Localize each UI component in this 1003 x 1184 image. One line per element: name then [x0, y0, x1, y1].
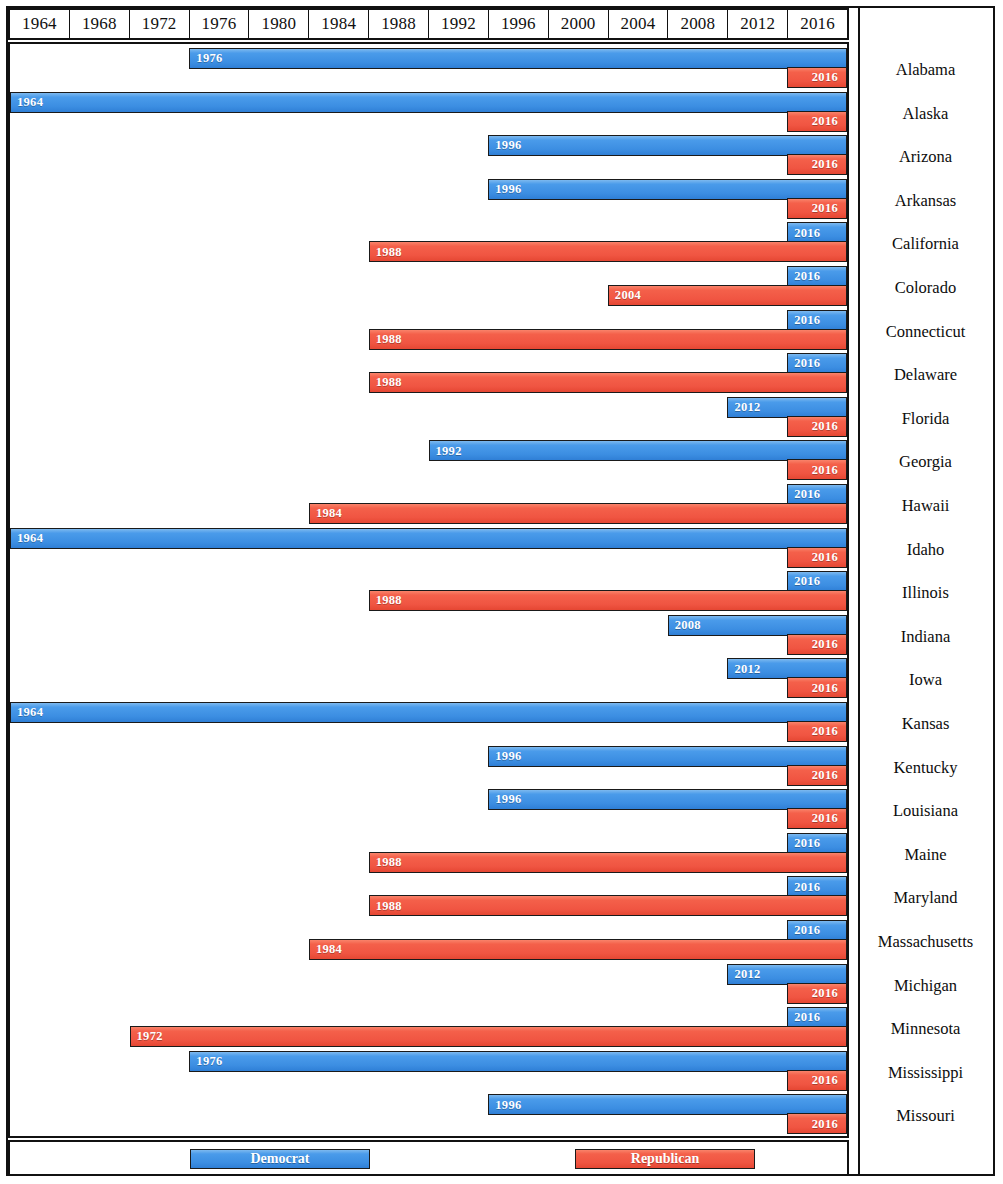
bar-label-democrat: 1992: [430, 445, 462, 458]
bar-label-democrat: 2016: [788, 924, 820, 937]
bar-republican-california: 1988: [369, 241, 847, 262]
bar-republican-maine: 1988: [369, 852, 847, 873]
state-label-kentucky: Kentucky: [860, 758, 991, 778]
bar-label-republican: 2016: [812, 464, 846, 477]
bar-democrat-kentucky: 1996: [488, 746, 847, 767]
bar-label-democrat: 2016: [788, 837, 820, 850]
bar-label-democrat: 2016: [788, 357, 820, 370]
bar-label-republican: 1988: [370, 376, 402, 389]
bar-republican-illinois: 1988: [369, 590, 847, 611]
bar-republican-alabama: 2016: [787, 67, 847, 88]
bar-democrat-connecticut: 2016: [787, 310, 847, 331]
state-label-arkansas: Arkansas: [860, 191, 991, 211]
bar-label-democrat: 2016: [788, 270, 820, 283]
bar-republican-louisiana: 2016: [787, 808, 847, 829]
bar-label-democrat: 2012: [728, 968, 760, 981]
state-label-california: California: [860, 234, 991, 254]
state-label-minnesota: Minnesota: [860, 1019, 991, 1039]
bar-democrat-mississippi: 1976: [189, 1051, 847, 1072]
state-label-maine: Maine: [860, 845, 991, 865]
axis-tick-1976: 1976: [190, 10, 250, 38]
bar-republican-georgia: 2016: [787, 459, 847, 480]
bar-democrat-kansas: 1964: [10, 702, 847, 723]
bar-republican-alaska: 2016: [787, 111, 847, 132]
bar-republican-minnesota: 1972: [130, 1026, 847, 1047]
bar-republican-hawaii: 1984: [309, 503, 847, 524]
bar-label-democrat: 1964: [11, 532, 43, 545]
state-label-hawaii: Hawaii: [860, 496, 991, 516]
bar-label-republican: 2016: [812, 725, 846, 738]
bar-label-republican: 2004: [609, 289, 641, 302]
bar-label-republican: 2016: [812, 202, 846, 215]
bar-republican-kentucky: 2016: [787, 765, 847, 786]
bar-label-democrat: 2016: [788, 488, 820, 501]
state-label-illinois: Illinois: [860, 583, 991, 603]
bar-democrat-michigan: 2012: [727, 964, 847, 985]
bar-republican-michigan: 2016: [787, 983, 847, 1004]
bar-democrat-louisiana: 1996: [488, 789, 847, 810]
state-label-mississippi: Mississippi: [860, 1063, 991, 1083]
state-label-alabama: Alabama: [860, 60, 991, 80]
bar-democrat-maine: 2016: [787, 833, 847, 854]
axis-tick-1980: 1980: [249, 10, 309, 38]
bar-label-republican: 2016: [812, 420, 846, 433]
bar-republican-maryland: 1988: [369, 895, 847, 916]
axis-tick-1972: 1972: [130, 10, 190, 38]
bar-democrat-alabama: 1976: [189, 48, 847, 69]
state-label-michigan: Michigan: [860, 976, 991, 996]
axis-tick-1992: 1992: [429, 10, 489, 38]
bar-republican-massachusetts: 1984: [309, 939, 847, 960]
bar-republican-kansas: 2016: [787, 721, 847, 742]
bar-democrat-idaho: 1964: [10, 528, 847, 549]
bar-republican-arkansas: 2016: [787, 198, 847, 219]
state-label-arizona: Arizona: [860, 147, 991, 167]
legend-label-republican: Republican: [631, 1151, 699, 1167]
bar-label-republican: 2016: [812, 812, 846, 825]
bar-democrat-alaska: 1964: [10, 92, 847, 113]
state-label-indiana: Indiana: [860, 627, 991, 647]
bar-democrat-missouri: 1996: [488, 1094, 847, 1115]
bar-label-democrat: 1996: [489, 793, 521, 806]
bar-label-republican: 1984: [310, 507, 342, 520]
state-label-delaware: Delaware: [860, 365, 991, 385]
plot-area: 1976201619642016199620161996201620161988…: [8, 42, 849, 1138]
legend-label-democrat: Democrat: [250, 1151, 309, 1167]
bar-democrat-indiana: 2008: [668, 615, 847, 636]
bar-label-democrat: 1964: [11, 96, 43, 109]
bar-democrat-maryland: 2016: [787, 876, 847, 897]
state-label-georgia: Georgia: [860, 452, 991, 472]
bar-label-democrat: 2016: [788, 881, 820, 894]
bar-label-republican: 2016: [812, 1118, 846, 1131]
bar-label-democrat: 1996: [489, 183, 521, 196]
state-label-colorado: Colorado: [860, 278, 991, 298]
bar-democrat-georgia: 1992: [429, 440, 848, 461]
bar-label-republican: 2016: [812, 71, 846, 84]
bar-label-democrat: 1964: [11, 706, 43, 719]
bar-democrat-florida: 2012: [727, 397, 847, 418]
bar-republican-connecticut: 1988: [369, 329, 847, 350]
chart-legend: Democrat Republican: [8, 1140, 849, 1176]
bar-democrat-illinois: 2016: [787, 571, 847, 592]
bar-republican-florida: 2016: [787, 416, 847, 437]
bar-republican-delaware: 1988: [369, 372, 847, 393]
bar-label-republican: 1984: [310, 943, 342, 956]
bar-republican-missouri: 2016: [787, 1113, 847, 1134]
bar-republican-arizona: 2016: [787, 154, 847, 175]
axis-tick-2000: 2000: [549, 10, 609, 38]
axis-tick-2008: 2008: [668, 10, 728, 38]
bar-label-republican: 1988: [370, 856, 402, 869]
bar-label-republican: 2016: [812, 682, 846, 695]
bar-democrat-colorado: 2016: [787, 266, 847, 287]
bar-label-republican: 2016: [812, 638, 846, 651]
bar-label-republican: 1988: [370, 900, 402, 913]
bar-label-republican: 2016: [812, 987, 846, 1000]
state-label-florida: Florida: [860, 409, 991, 429]
bar-democrat-delaware: 2016: [787, 353, 847, 374]
state-label-column: AlabamaAlaskaArizonaArkansasCaliforniaCo…: [860, 42, 997, 1138]
bar-democrat-arkansas: 1996: [488, 179, 847, 200]
bar-label-republican: 2016: [812, 115, 846, 128]
bar-label-democrat: 2016: [788, 314, 820, 327]
bar-democrat-arizona: 1996: [488, 135, 847, 156]
year-axis-header: 1964196819721976198019841988199219962000…: [8, 8, 849, 40]
bar-republican-idaho: 2016: [787, 547, 847, 568]
